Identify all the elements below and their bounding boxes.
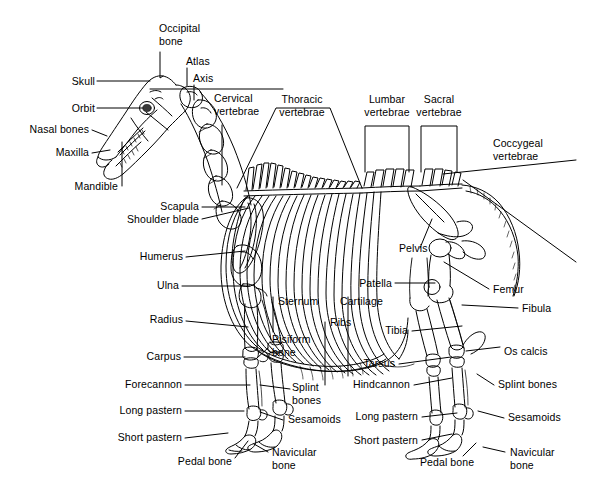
label-orbit: Orbit xyxy=(0,102,95,115)
label-splint-bones-front: Splint bones xyxy=(292,381,321,406)
label-hindcannon: Hindcannon xyxy=(320,378,410,391)
label-ribs: Ribs xyxy=(330,316,351,329)
label-forecannon: Forecannon xyxy=(85,378,182,391)
label-sesamoids-hind: Sesamoids xyxy=(508,411,561,424)
lumbar-sacral-vertebrae xyxy=(362,169,462,193)
label-mandible: Mandible xyxy=(0,180,118,193)
skull-bones xyxy=(97,76,191,179)
label-sacral-vertebrae: Sacral vertebrae xyxy=(405,93,473,118)
label-long-pastern-hind: Long pastern xyxy=(318,410,418,423)
label-long-pastern-front: Long pastern xyxy=(80,404,182,417)
label-sternum: Sternum xyxy=(278,295,318,308)
label-carpus: Carpus xyxy=(95,350,181,363)
label-pelvis: Pelvis xyxy=(399,242,428,255)
label-patella: Patella xyxy=(330,277,392,290)
label-maxilla: Maxilla xyxy=(0,146,89,159)
label-splint-bones-hind: Splint bones xyxy=(498,378,557,391)
label-fibula: Fibula xyxy=(522,302,551,315)
label-axis: Axis xyxy=(193,72,213,85)
label-occipital-bone: Occipital bone xyxy=(159,22,200,47)
label-humerus: Humerus xyxy=(90,250,183,263)
label-cartilage: Cartilage xyxy=(340,295,383,308)
label-navicular-bone-front: Navicular bone xyxy=(272,446,317,471)
coccygeal-vertebrae xyxy=(462,185,520,296)
label-tibia: Tibia xyxy=(350,324,408,337)
label-pisiform-bone: Pisiform bone xyxy=(272,333,311,358)
label-shoulder-blade: Shoulder blade xyxy=(90,213,199,226)
thoracic-vertebrae xyxy=(244,163,362,196)
label-short-pastern-front: Short pastern xyxy=(78,431,182,444)
label-os-calcis: Os calcis xyxy=(504,345,548,358)
label-ulna: Ulna xyxy=(95,279,179,292)
label-coccygeal-vertebrae: Coccygeal vertebrae xyxy=(493,137,543,162)
label-short-pastern-hind: Short pastern xyxy=(314,434,418,447)
label-radius: Radius xyxy=(95,313,183,326)
label-pedal-bone-hind: Pedal bone xyxy=(420,456,474,469)
horse-skeleton-diagram: Occipital bone Atlas Axis Cervical verte… xyxy=(0,0,603,491)
label-tarsus: Tarsus xyxy=(340,357,395,370)
label-thoracic-vertebrae: Thoracic vertebrae xyxy=(252,93,352,118)
label-skull: Skull xyxy=(0,75,95,88)
label-femur: Femur xyxy=(493,283,524,296)
label-atlas: Atlas xyxy=(186,55,210,68)
label-pedal-bone-front: Pedal bone xyxy=(125,455,232,468)
label-navicular-bone-hind: Navicular bone xyxy=(510,446,555,471)
label-nasal-bones: Nasal bones xyxy=(0,123,89,136)
label-scapula: Scapula xyxy=(100,200,199,213)
